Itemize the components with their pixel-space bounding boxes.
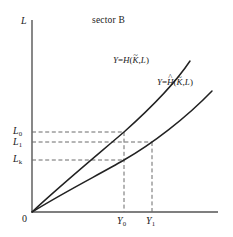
- figure-container: sector B L 0 L0 L1 Lk Y0 Y1 Y=H(~K,L) Y=…: [0, 0, 233, 237]
- y-tick-base-Lk: L: [13, 153, 19, 164]
- y-tick-base-L1: L: [13, 136, 19, 147]
- origin-label: 0: [22, 214, 27, 224]
- y-tick-sub-Lk: k: [19, 158, 22, 165]
- x-tick-label-Y1: Y1: [146, 216, 155, 226]
- chart-title: sector B: [92, 16, 125, 26]
- y-tick-label-L0: L0: [13, 126, 22, 136]
- x-tick-base-Y0: Y: [117, 215, 123, 226]
- curve-lower-Hhat: [32, 91, 212, 212]
- lower-label-fn-wrap: ^H: [167, 78, 174, 87]
- tilde-accent-icon: ~: [177, 73, 183, 82]
- x-tick-sub-Y1: 1: [152, 220, 155, 227]
- y-tick-base-L0: L: [13, 125, 19, 136]
- y-tick-sub-L1: 1: [19, 141, 22, 148]
- x-tick-label-Y0: Y0: [117, 216, 126, 226]
- y-tick-sub-L0: 0: [19, 130, 22, 137]
- hat-accent-icon: ^: [167, 73, 174, 82]
- y-tick-label-Lk: Lk: [13, 154, 22, 164]
- y-tick-label-L1: L1: [13, 137, 22, 147]
- y-axis-label: L: [21, 16, 27, 26]
- plot-area: [0, 0, 233, 237]
- upper-label-paren-close: ): [146, 55, 149, 65]
- lower-label-paren-close: ): [190, 77, 193, 87]
- tilde-accent-icon: ~: [133, 51, 139, 60]
- lower-curve-label: Y=^H(~K,L): [157, 78, 193, 87]
- upper-curve-label: Y=H(~K,L): [113, 56, 149, 65]
- x-tick-sub-Y0: 0: [123, 220, 126, 227]
- x-tick-base-Y1: Y: [146, 215, 152, 226]
- upper-label-arg1-wrap: ~K: [133, 56, 139, 65]
- lower-label-arg1-wrap: ~K: [177, 78, 183, 87]
